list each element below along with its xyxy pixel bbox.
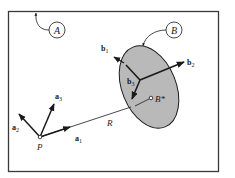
a3-label: a3 xyxy=(55,92,62,102)
vector-a2 xyxy=(19,114,40,137)
body-b xyxy=(108,37,190,137)
frame-b-callout: B xyxy=(143,22,182,46)
kinematics-diagram: A B P B* R a1 a2 a3 b1 b2 b3 xyxy=(0,0,235,178)
b1-label: b1 xyxy=(101,44,108,54)
point-p xyxy=(38,135,42,139)
a1-label: a1 xyxy=(75,134,82,144)
point-b-star xyxy=(149,96,153,100)
point-b-star-label: B* xyxy=(155,94,165,104)
frame-b-label: B xyxy=(171,25,177,36)
b2-label: b2 xyxy=(187,58,194,68)
a2-label: a2 xyxy=(12,123,19,133)
frame-a-label: A xyxy=(53,25,61,36)
vector-a1 xyxy=(40,127,70,137)
vector-a3 xyxy=(40,104,54,137)
point-p-label: P xyxy=(36,142,43,152)
position-r-label: R xyxy=(106,118,113,128)
a-basis-vectors xyxy=(19,104,70,137)
frame-a-callout: A xyxy=(36,13,65,38)
